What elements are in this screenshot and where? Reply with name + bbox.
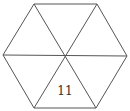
diagonal-left-right xyxy=(3,55,127,56)
hexagon-diagram: 11 xyxy=(0,0,130,111)
triangle-label-bottom: 11 xyxy=(57,84,72,98)
